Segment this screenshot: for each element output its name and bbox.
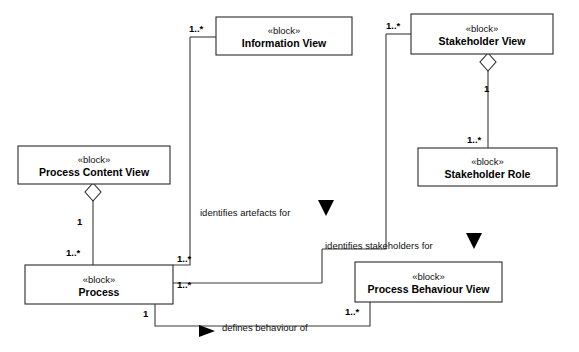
block-stereotype-process-behaviour-view: «block»	[412, 271, 445, 282]
multiplicity-process-bottom: 1	[143, 308, 149, 319]
block-rect-stakeholder-role	[418, 148, 557, 186]
block-stakeholder-role[interactable]: «block»Stakeholder Role	[418, 148, 557, 186]
multiplicity-process-right-upper: 1..*	[177, 253, 192, 264]
block-name-process-behaviour-view: Process Behaviour View	[368, 283, 491, 295]
association-label-identifies-stakeholders-for: identifies stakeholders for	[325, 240, 433, 251]
diagram-canvas: «block»Information View«block»Stakeholde…	[0, 0, 579, 352]
multiplicity-behaviour-view-bottom-left: 1..*	[345, 306, 360, 317]
multiplicity-process-content-agg: 1	[77, 216, 83, 227]
block-name-stakeholder-role: Stakeholder Role	[445, 168, 531, 180]
multiplicity-stakeholder-role-top: 1..*	[467, 134, 482, 145]
block-name-process: Process	[79, 286, 120, 298]
arrow-icon-stakeholders-direction-arrow	[466, 233, 482, 249]
block-stereotype-process-content-view: «block»	[78, 154, 111, 165]
arrow-icon-artefacts-direction-arrow	[318, 200, 334, 216]
diamond-icon-stakeholder-view-aggregation	[480, 53, 496, 71]
block-process-behaviour-view[interactable]: «block»Process Behaviour View	[355, 262, 502, 302]
multiplicity-info-view-left: 1..*	[189, 23, 204, 34]
block-name-stakeholder-view: Stakeholder View	[439, 35, 527, 47]
diamond-icon-process-content-view-aggregation	[85, 183, 101, 201]
multiplicity-process-right-lower: 1..*	[177, 279, 192, 290]
block-rect-information-view	[216, 17, 352, 55]
connector-process-to-stakeholder-view	[322, 34, 386, 249]
block-stereotype-stakeholder-view: «block»	[466, 23, 499, 34]
multiplicity-stakeholder-view-left: 1..*	[386, 20, 401, 31]
connector-process-to-information-view	[173, 37, 190, 265]
block-stereotype-process: «block»	[83, 274, 116, 285]
blocks-group: «block»Information View«block»Stakeholde…	[18, 14, 557, 304]
block-rect-process-content-view	[18, 146, 170, 184]
association-label-defines-behaviour-of: defines behaviour of	[222, 322, 308, 333]
block-rect-stakeholder-view	[411, 14, 553, 54]
block-information-view[interactable]: «block»Information View	[216, 17, 352, 55]
block-stakeholder-view[interactable]: «block»Stakeholder View	[411, 14, 553, 54]
association-label-identifies-artefacts-for: identifies artefacts for	[200, 207, 290, 218]
block-process-content-view[interactable]: «block»Process Content View	[18, 146, 170, 184]
block-stereotype-stakeholder-role: «block»	[471, 156, 504, 167]
block-process[interactable]: «block»Process	[25, 265, 173, 304]
multiplicity-process-top-left: 1..*	[66, 247, 81, 258]
block-stereotype-information-view: «block»	[268, 25, 301, 36]
multiplicity-stakeholder-view-agg: 1	[484, 83, 490, 94]
block-rect-process-behaviour-view	[355, 262, 502, 302]
block-rect-process	[25, 265, 173, 304]
block-name-information-view: Information View	[242, 37, 327, 49]
block-name-process-content-view: Process Content View	[39, 166, 150, 178]
uml-block-definition-diagram: «block»Information View«block»Stakeholde…	[0, 0, 579, 352]
arrow-icon-defines-behaviour-arrow	[199, 325, 215, 337]
